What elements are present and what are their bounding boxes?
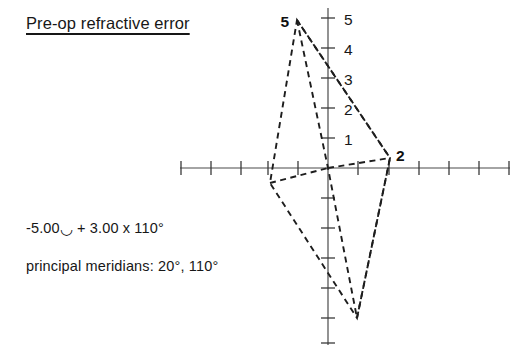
y-tick-label-3: 3 — [344, 71, 353, 88]
prescription-caption: -5.00◡ + 3.00 x 110° — [26, 219, 164, 237]
y-axis: 5 4 3 2 1 — [321, 8, 353, 345]
y-axis-tick-labels: 5 4 3 2 1 — [344, 11, 353, 148]
prescription-sphere-power: -5.00 — [26, 220, 60, 236]
point-label-apex-5: 5 — [280, 13, 289, 30]
y-tick-label-5: 5 — [344, 11, 353, 28]
meridian-110-loop — [297, 20, 390, 318]
cross-chord-right — [328, 158, 390, 168]
y-tick-label-4: 4 — [344, 41, 353, 58]
y-tick-label-1: 1 — [344, 131, 353, 148]
y-tick-label-2: 2 — [344, 101, 353, 118]
cross-chord-left — [270, 168, 328, 183]
figure-pre-op-refractive-error: Pre-op refractive error — [0, 0, 526, 363]
x-axis — [180, 161, 510, 175]
meridian-20-loop — [270, 20, 390, 318]
point-label-right-2: 2 — [396, 147, 405, 164]
refraction-plot: 5 4 3 2 1 5 2 — [0, 0, 526, 363]
sphere-symbol-icon: ◡ — [60, 220, 73, 238]
prescription-cylinder-axis: + 3.00 x 110° — [73, 220, 164, 236]
principal-meridians-caption: principal meridians: 20°, 110° — [26, 258, 218, 274]
